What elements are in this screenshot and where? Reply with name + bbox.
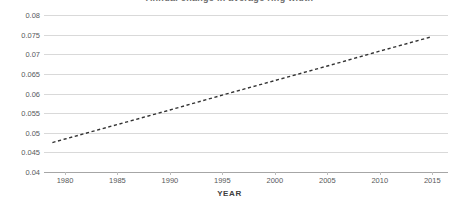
- chart-container: Annual change in average ring width 0.04…: [0, 0, 459, 206]
- plot-area: 0.040.0450.050.0550.060.0650.070.0750.08…: [0, 0, 459, 206]
- trend-line-series: [0, 0, 459, 206]
- x-axis-title: YEAR: [0, 189, 459, 198]
